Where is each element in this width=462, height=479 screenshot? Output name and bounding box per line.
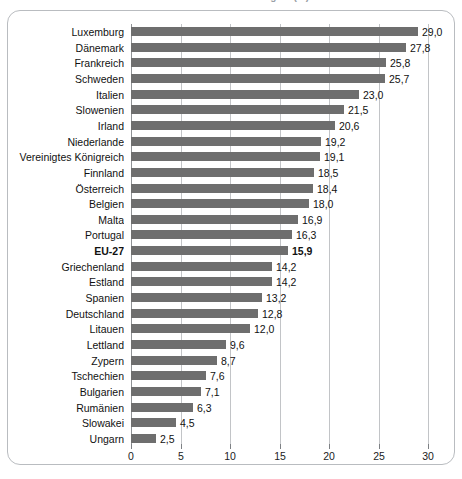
bar-row: Italien23,0 <box>0 87 462 103</box>
bar <box>131 58 386 67</box>
bar <box>131 277 272 286</box>
bar-row: Griechenland14,2 <box>0 259 462 275</box>
category-label: Ungarn <box>0 431 124 447</box>
bar-value-label: 20,6 <box>339 118 359 134</box>
bar-value-label: 27,8 <box>410 40 430 56</box>
bar <box>131 371 206 380</box>
bar-value-label: 18,5 <box>318 165 338 181</box>
bar <box>131 340 226 349</box>
bar <box>131 403 193 412</box>
bar-value-label: 14,2 <box>276 274 296 290</box>
x-tick-label-20: 20 <box>314 450 344 462</box>
bar-value-label: 13,2 <box>266 290 286 306</box>
bar <box>131 105 344 114</box>
bar-row: Schweden25,7 <box>0 71 462 87</box>
bar-chart-plot: 051015202530Luxemburg29,0Dänemark27,8Fra… <box>0 0 462 479</box>
bar-row: Vereinigtes Königreich19,1 <box>0 149 462 165</box>
bar-row: Malta16,9 <box>0 212 462 228</box>
bar <box>131 309 258 318</box>
bar <box>131 246 288 255</box>
category-label: Slowenien <box>0 102 124 118</box>
bar-value-label: 9,6 <box>230 337 245 353</box>
category-label: Slowakei <box>0 415 124 431</box>
bar-row: Frankreich25,8 <box>0 55 462 71</box>
category-label: Belgien <box>0 196 124 212</box>
x-tick-label-30: 30 <box>413 450 443 462</box>
bar-value-label: 15,9 <box>292 243 312 259</box>
bar-row: Zypern8,7 <box>0 353 462 369</box>
bar-value-label: 25,7 <box>389 71 409 87</box>
category-label: Dänemark <box>0 40 124 56</box>
bar-value-label: 19,1 <box>324 149 344 165</box>
category-label: Irland <box>0 118 124 134</box>
bar <box>131 324 250 333</box>
bar-value-label: 6,3 <box>197 400 212 416</box>
bar-row: Slowakei4,5 <box>0 415 462 431</box>
bar-value-label: 12,8 <box>262 306 282 322</box>
category-label: Schweden <box>0 71 124 87</box>
bar-value-label: 18,4 <box>317 181 337 197</box>
category-label: Vereinigtes Königreich <box>0 149 124 165</box>
bar <box>131 27 418 36</box>
bar <box>131 137 321 146</box>
bar-row: Estland14,2 <box>0 274 462 290</box>
bar-value-label: 16,3 <box>296 227 316 243</box>
bar-value-label: 25,8 <box>390 55 410 71</box>
bar <box>131 168 314 177</box>
bar-value-label: 8,7 <box>221 353 236 369</box>
bar <box>131 152 320 161</box>
bar-value-label: 12,0 <box>254 321 274 337</box>
category-label: Litauen <box>0 321 124 337</box>
bar <box>131 418 176 427</box>
bar-value-label: 16,9 <box>302 212 322 228</box>
bar-value-label: 21,5 <box>348 102 368 118</box>
bar <box>131 184 313 193</box>
x-tick-label-25: 25 <box>364 450 394 462</box>
bar-row: Irland20,6 <box>0 118 462 134</box>
x-tick-label-10: 10 <box>215 450 245 462</box>
bar <box>131 215 298 224</box>
bar <box>131 434 156 443</box>
category-label: EU-27 <box>0 243 124 259</box>
x-tick-label-5: 5 <box>166 450 196 462</box>
bar-value-label: 14,2 <box>276 259 296 275</box>
category-label: Niederlande <box>0 134 124 150</box>
bar-row: Spanien13,2 <box>0 290 462 306</box>
bar-row: Finnland18,5 <box>0 165 462 181</box>
bar-row: Bulgarien7,1 <box>0 384 462 400</box>
bar-row: Niederlande19,2 <box>0 134 462 150</box>
category-label: Rumänien <box>0 400 124 416</box>
bar-row: EU-2715,9 <box>0 243 462 259</box>
category-label: Lettland <box>0 337 124 353</box>
bar <box>131 90 359 99</box>
bar-value-label: 23,0 <box>363 87 383 103</box>
bar-row: Slowenien21,5 <box>0 102 462 118</box>
bar <box>131 43 406 52</box>
bar-row: Tschechien7,6 <box>0 368 462 384</box>
category-label: Portugal <box>0 227 124 243</box>
category-label: Österreich <box>0 181 124 197</box>
bar <box>131 387 201 396</box>
bar <box>131 121 335 130</box>
category-label: Tschechien <box>0 368 124 384</box>
bar-row: Rumänien6,3 <box>0 400 462 416</box>
category-label: Estland <box>0 274 124 290</box>
bar-value-label: 19,2 <box>325 134 345 150</box>
category-label: Deutschland <box>0 306 124 322</box>
bar <box>131 74 385 83</box>
bar-row: Lettland9,6 <box>0 337 462 353</box>
bar-row: Österreich18,4 <box>0 181 462 197</box>
category-label: Bulgarien <box>0 384 124 400</box>
category-label: Finnland <box>0 165 124 181</box>
bar-row: Portugal16,3 <box>0 227 462 243</box>
bar-value-label: 7,6 <box>210 368 225 384</box>
bar-row: Belgien18,0 <box>0 196 462 212</box>
category-label: Griechenland <box>0 259 124 275</box>
category-label: Luxemburg <box>0 24 124 40</box>
x-tick-label-0: 0 <box>116 450 146 462</box>
bar-value-label: 4,5 <box>180 415 195 431</box>
bar-row: Dänemark27,8 <box>0 40 462 56</box>
bar <box>131 199 309 208</box>
category-label: Zypern <box>0 353 124 369</box>
bar-row: Ungarn2,5 <box>0 431 462 447</box>
